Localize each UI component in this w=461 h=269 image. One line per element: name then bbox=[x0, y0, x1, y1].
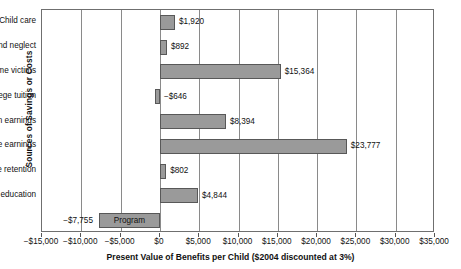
gridline bbox=[81, 10, 82, 231]
x-axis-tick-label: −$5,000 bbox=[105, 237, 135, 246]
x-axis-tick-label: $20,000 bbox=[301, 237, 331, 246]
gridline bbox=[121, 10, 122, 231]
category-label: College tuition bbox=[0, 92, 41, 100]
bar-value-label: $892 bbox=[171, 43, 189, 51]
bar-value-label: $8,394 bbox=[230, 118, 255, 126]
bar bbox=[160, 40, 167, 55]
bar bbox=[160, 15, 175, 30]
x-axis-tick-label: $15,000 bbox=[262, 237, 292, 246]
bar-value-label: $23,777 bbox=[351, 142, 381, 150]
x-axis-tick-label: −$10,000 bbox=[63, 237, 97, 246]
bar-value-label: −$646 bbox=[164, 93, 187, 101]
bar bbox=[160, 139, 347, 154]
bar-inner-label: Program bbox=[99, 217, 160, 225]
bar-value-label: $1,920 bbox=[179, 18, 204, 26]
bar-value-label: $4,844 bbox=[202, 192, 227, 200]
x-axis-tick-label: $25,000 bbox=[341, 237, 371, 246]
gridline bbox=[356, 10, 357, 231]
x-axis-tick-label: $5,000 bbox=[186, 237, 211, 246]
x-axis-title: Present Value of Benefits per Child ($20… bbox=[0, 252, 461, 262]
bar bbox=[160, 64, 281, 79]
x-axis-tick-label: $0 bbox=[154, 237, 163, 246]
bar-value-label: −$7,755 bbox=[63, 217, 93, 225]
category-label: Child care bbox=[0, 17, 41, 25]
plot-area: $1,920$892$15,364−$646$8,394$23,777$802$… bbox=[41, 9, 434, 232]
bar bbox=[155, 89, 160, 104]
x-axis-tick-label: $10,000 bbox=[223, 237, 253, 246]
bar-chart: Sources of Savings or Costs $1,920$892$1… bbox=[0, 0, 461, 269]
category-label: Justice system/crime victims bbox=[0, 67, 41, 75]
bar bbox=[160, 164, 166, 179]
gridline bbox=[278, 10, 279, 231]
x-axis-tick-label: −$15,000 bbox=[24, 237, 58, 246]
bar bbox=[160, 114, 226, 129]
bar bbox=[160, 188, 198, 203]
category-label: Abuse and neglect bbox=[0, 42, 41, 50]
category-label: Taxes on earnings bbox=[0, 117, 41, 125]
category-label: Lifetime earnings bbox=[0, 141, 41, 149]
category-label: Special education bbox=[0, 191, 41, 199]
gridline bbox=[396, 10, 397, 231]
bar-value-label: $802 bbox=[170, 167, 188, 175]
category-label: Grade retention bbox=[0, 166, 41, 174]
bar-value-label: $15,364 bbox=[285, 68, 315, 76]
x-axis-tick-label: $35,000 bbox=[419, 237, 449, 246]
gridline bbox=[317, 10, 318, 231]
x-axis-tick-label: $30,000 bbox=[380, 237, 410, 246]
